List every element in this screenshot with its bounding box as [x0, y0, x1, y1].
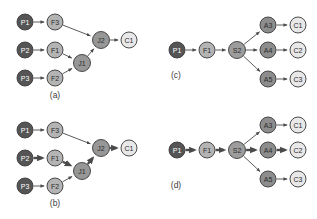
node-circle-c-C2	[290, 42, 306, 58]
edge-a-F1-to-a-J1	[63, 54, 72, 58]
node-circle-d-C1	[290, 117, 306, 133]
node-circle-a-P3	[17, 70, 33, 86]
node-d-C2: C2	[290, 142, 306, 158]
node-circle-b-P3	[17, 178, 33, 194]
panel-c: P1F1S2A3A4A5C1C2C3(c)	[169, 17, 306, 87]
node-b-J1: J1	[74, 163, 91, 180]
node-c-C3: C3	[290, 71, 306, 87]
edge-b-F2-to-b-J1	[63, 177, 73, 182]
panel-a-edges	[34, 22, 119, 78]
panel-caption-d: (d)	[171, 180, 182, 190]
node-a-F1: F1	[47, 42, 63, 58]
node-circle-d-P1	[169, 142, 185, 158]
node-circle-c-A4	[260, 42, 276, 58]
node-b-F2: F2	[47, 178, 63, 194]
node-circle-a-P1	[17, 14, 33, 30]
node-a-P1: P1	[17, 14, 33, 30]
node-d-P1: P1	[169, 142, 185, 158]
panel-caption-b: (b)	[50, 198, 61, 208]
node-circle-c-A5	[260, 71, 276, 87]
panel-b-edges	[34, 130, 117, 186]
node-circle-a-J1	[74, 55, 91, 72]
node-circle-d-C2	[290, 142, 306, 158]
node-circle-d-A5	[260, 171, 276, 187]
node-c-C1: C1	[290, 17, 306, 33]
workflow-graph-figure: P1F3P2F1P3F2J1J2C1(a)P1F3P2F1P3F2J1J2C1(…	[0, 0, 317, 219]
node-circle-d-C3	[290, 171, 306, 187]
node-a-P2: P2	[17, 42, 33, 58]
node-circle-d-F1	[199, 142, 215, 158]
node-c-C2: C2	[290, 42, 306, 58]
node-circle-a-C1	[121, 32, 137, 48]
edge-a-J1-to-a-J2	[88, 49, 94, 56]
node-a-F2: F2	[47, 70, 63, 86]
node-b-F1: F1	[47, 150, 63, 166]
node-circle-b-C1	[121, 140, 137, 156]
panel-caption-a: (a)	[50, 90, 61, 100]
node-d-A3: A3	[260, 117, 276, 133]
edge-a-F2-to-a-J1	[63, 69, 73, 74]
edge-a-F3-to-a-J2	[63, 25, 90, 36]
node-circle-b-F2	[47, 178, 63, 194]
node-b-F3: F3	[47, 122, 63, 138]
node-c-A3: A3	[260, 17, 276, 33]
node-circle-d-S2	[229, 142, 246, 159]
node-b-J2: J2	[93, 140, 110, 157]
node-b-P1: P1	[17, 122, 33, 138]
edge-d-S2-to-d-A5	[244, 156, 260, 171]
node-circle-b-J2	[93, 140, 110, 157]
node-circle-b-P1	[17, 122, 33, 138]
node-circle-d-A3	[260, 117, 276, 133]
node-circle-b-J1	[74, 163, 91, 180]
edge-d-S2-to-d-A3	[244, 132, 259, 144]
node-circle-a-F3	[47, 14, 63, 30]
edge-b-J1-to-b-J2-highlighted	[88, 158, 93, 164]
node-c-S2: S2	[229, 42, 246, 59]
node-c-F1: F1	[199, 42, 215, 58]
node-d-A5: A5	[260, 171, 276, 187]
panel-d: P1F1S2A3A4A5C1C2C3(d)	[169, 117, 306, 190]
node-b-P2: P2	[17, 150, 33, 166]
node-b-C1: C1	[121, 140, 137, 156]
node-c-A5: A5	[260, 71, 276, 87]
panel-a: P1F3P2F1P3F2J1J2C1(a)	[17, 14, 137, 100]
node-a-J2: J2	[93, 32, 110, 49]
edge-c-S2-to-c-A3	[244, 32, 259, 44]
node-circle-b-F1	[47, 150, 63, 166]
node-d-S2: S2	[229, 142, 246, 159]
node-circle-b-P2	[17, 150, 33, 166]
node-circle-d-A4	[260, 142, 276, 158]
edge-c-S2-to-c-A5	[244, 56, 260, 71]
node-d-C3: C3	[290, 171, 306, 187]
node-a-P3: P3	[17, 70, 33, 86]
node-circle-c-P1	[169, 42, 185, 58]
node-a-J1: J1	[74, 55, 91, 72]
panel-caption-c: (c)	[171, 70, 181, 80]
panel-b: P1F3P2F1P3F2J1J2C1(b)	[17, 122, 137, 208]
node-circle-c-F1	[199, 42, 215, 58]
node-d-C1: C1	[290, 117, 306, 133]
node-c-A4: A4	[260, 42, 276, 58]
node-a-F3: F3	[47, 14, 63, 30]
node-circle-c-A3	[260, 17, 276, 33]
node-circle-a-F2	[47, 70, 63, 86]
node-circle-a-J2	[93, 32, 110, 49]
figure-canvas: P1F3P2F1P3F2J1J2C1(a)P1F3P2F1P3F2J1J2C1(…	[0, 0, 317, 219]
node-d-A4: A4	[260, 142, 276, 158]
node-d-F1: F1	[199, 142, 215, 158]
node-circle-c-C3	[290, 71, 306, 87]
node-c-P1: P1	[169, 42, 185, 58]
node-circle-a-F1	[47, 42, 63, 58]
node-circle-c-S2	[229, 42, 246, 59]
node-circle-c-C1	[290, 17, 306, 33]
edge-b-F1-to-b-J1-highlighted	[63, 162, 70, 166]
node-circle-a-P2	[17, 42, 33, 58]
node-b-P3: P3	[17, 178, 33, 194]
node-circle-b-F3	[47, 122, 63, 138]
edge-b-F3-to-b-J2	[63, 133, 90, 144]
node-a-C1: C1	[121, 32, 137, 48]
